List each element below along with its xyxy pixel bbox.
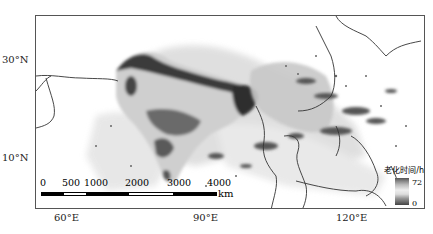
map-frame: 0 500 1000 2000 3000 4000 km 老化时间/h 72 0 <box>35 15 425 209</box>
scale-tick-500: 500 <box>62 177 80 188</box>
legend-max: 72 <box>412 178 422 187</box>
scale-tick-2000: 2000 <box>125 177 149 188</box>
scale-tick-4000: 4000 <box>207 177 231 188</box>
scale-bar: 0 500 1000 2000 3000 4000 km <box>41 177 231 207</box>
scale-bar-segments <box>41 192 217 196</box>
legend: 老化时间/h 72 0 <box>380 164 425 209</box>
x-label-90e: 90°E <box>193 212 218 223</box>
y-label-30n: 30°N <box>2 54 28 65</box>
y-label-10n: 10°N <box>2 152 28 163</box>
legend-title: 老化时间/h <box>384 164 424 175</box>
x-label-120e: 120°E <box>336 212 367 223</box>
scale-tick-1000: 1000 <box>84 177 108 188</box>
legend-min: 0 <box>412 199 417 208</box>
x-label-60e: 60°E <box>54 212 79 223</box>
legend-colorbar <box>395 178 409 205</box>
scale-unit: km <box>218 188 234 199</box>
scale-tick-0: 0 <box>40 177 46 188</box>
scale-tick-3000: 3000 <box>167 177 191 188</box>
